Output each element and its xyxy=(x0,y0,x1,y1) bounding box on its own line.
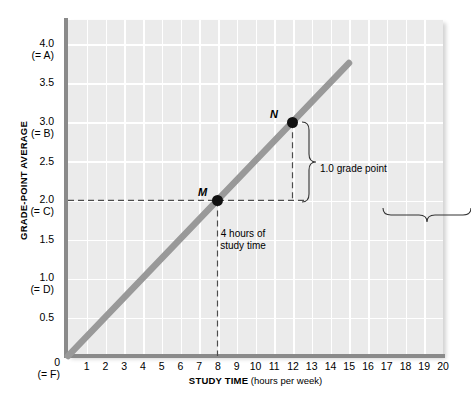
annotation-run-line2: study time xyxy=(188,240,298,252)
gridline-horizontal xyxy=(68,201,443,203)
x-tick-20: 20 xyxy=(433,360,453,372)
gridline-vertical xyxy=(331,20,333,356)
data-point-N xyxy=(287,117,298,128)
x-tick-19: 19 xyxy=(414,360,434,372)
y-tick-3.5: 3.5 xyxy=(8,77,54,89)
y-tick-sub: (= C) xyxy=(8,206,54,218)
x-tick-17: 17 xyxy=(377,360,397,372)
x-tick-6: 6 xyxy=(171,360,191,372)
y-tick-2.0: 2.0 (= C) xyxy=(8,194,54,217)
origin-value: 0 xyxy=(14,357,60,369)
x-tick-15: 15 xyxy=(339,360,359,372)
y-tick-sub: (= D) xyxy=(8,284,54,296)
gridline-vertical xyxy=(424,20,426,356)
x-axis-title-main: STUDY TIME xyxy=(189,375,248,386)
annotation-run-line1: 4 hours of xyxy=(188,228,298,240)
gridline-vertical xyxy=(274,20,276,356)
gridline-vertical xyxy=(106,20,108,356)
y-axis-title: GRADE-POINT AVERAGE xyxy=(18,96,29,266)
gridline-horizontal xyxy=(68,318,443,320)
gridline-horizontal xyxy=(68,122,443,124)
annotation-run: 4 hours of study time xyxy=(188,228,298,252)
y-tick-1.5: 1.5 xyxy=(8,234,54,246)
x-tick-3: 3 xyxy=(114,360,134,372)
x-axis-title-unit: (hours per week) xyxy=(248,375,322,386)
x-axis-line xyxy=(64,354,445,358)
plot-area xyxy=(68,20,443,356)
gridline-vertical xyxy=(181,20,183,356)
y-tick-value: 2.5 xyxy=(8,156,54,168)
x-tick-8: 8 xyxy=(208,360,228,372)
gridline-vertical xyxy=(162,20,164,356)
x-tick-7: 7 xyxy=(189,360,209,372)
gridline-vertical xyxy=(124,20,126,356)
gridline-vertical xyxy=(368,20,370,356)
annotation-rise: 1.0 grade point xyxy=(320,163,387,175)
y-tick-2.5: 2.5 xyxy=(8,156,54,168)
gridline-vertical xyxy=(293,20,295,356)
origin-label: 0 (= F) xyxy=(14,357,60,380)
gridline-vertical xyxy=(256,20,258,356)
y-tick-value: 3.5 xyxy=(8,77,54,89)
x-tick-4: 4 xyxy=(133,360,153,372)
x-tick-16: 16 xyxy=(358,360,378,372)
y-tick-value: 1.0 xyxy=(8,272,54,284)
y-tick-3.0: 3.0 (= B) xyxy=(8,116,54,139)
gridline-horizontal xyxy=(68,279,443,281)
y-tick-4.0: 4.0 (= A) xyxy=(8,38,54,61)
gridline-vertical xyxy=(237,20,239,356)
gridline-vertical xyxy=(387,20,389,356)
gridline-vertical xyxy=(406,20,408,356)
y-tick-value: 2.0 xyxy=(8,194,54,206)
gridline-horizontal xyxy=(68,44,443,46)
x-tick-9: 9 xyxy=(227,360,247,372)
y-tick-value: 0.5 xyxy=(8,312,54,324)
y-tick-0.5: 0.5 xyxy=(8,312,54,324)
y-tick-sub: (= A) xyxy=(8,50,54,62)
y-axis-line xyxy=(64,18,68,358)
data-point-label-N: N xyxy=(270,108,278,120)
x-tick-2: 2 xyxy=(96,360,116,372)
origin-sub: (= F) xyxy=(14,369,60,381)
x-tick-11: 11 xyxy=(264,360,284,372)
gridline-horizontal xyxy=(68,83,443,85)
y-tick-value: 1.5 xyxy=(8,234,54,246)
chart-figure: M N 4.0 (= A) 3.5 3.0 (= B) 2.5 2.0 (= C… xyxy=(0,0,471,405)
data-point-label-M: M xyxy=(198,186,207,198)
x-tick-1: 1 xyxy=(77,360,97,372)
gridline-vertical xyxy=(312,20,314,356)
y-tick-value: 3.0 xyxy=(8,116,54,128)
x-tick-10: 10 xyxy=(246,360,266,372)
data-point-M xyxy=(212,195,223,206)
x-tick-18: 18 xyxy=(396,360,416,372)
x-tick-5: 5 xyxy=(152,360,172,372)
gridline-vertical xyxy=(87,20,89,356)
gridline-vertical xyxy=(143,20,145,356)
x-tick-13: 13 xyxy=(302,360,322,372)
gridline-vertical xyxy=(218,20,220,356)
gridline-vertical xyxy=(349,20,351,356)
y-tick-value: 4.0 xyxy=(8,38,54,50)
y-tick-1.0: 1.0 (= D) xyxy=(8,272,54,295)
y-tick-sub: (= B) xyxy=(8,128,54,140)
x-axis-title: STUDY TIME (hours per week) xyxy=(68,375,443,386)
x-tick-14: 14 xyxy=(321,360,341,372)
x-tick-12: 12 xyxy=(283,360,303,372)
